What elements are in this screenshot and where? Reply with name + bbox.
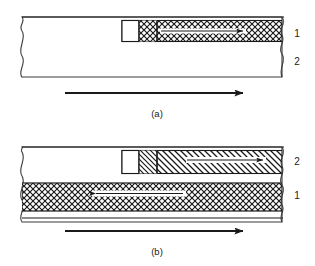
panel-b-crosshatch-fill — [22, 183, 282, 211]
panel-b-label-layer-1: 1 — [294, 190, 300, 201]
panel-a-caption: (a) — [151, 108, 163, 119]
figure-container: 1 2 (a) — [0, 0, 315, 266]
panel-a-narrow-block-fill — [139, 21, 157, 42]
panel-a-inner-arrow — [160, 29, 246, 34]
panel-a-white-block — [122, 21, 139, 42]
panel-b-narrow-block-fill — [139, 151, 157, 174]
panel-b-layer-1-band — [22, 183, 282, 211]
panel-a-label-layer-2: 2 — [294, 56, 300, 67]
panel-b-lower-arrow — [92, 191, 186, 197]
panel-b-white-block — [122, 151, 139, 174]
panel-a-label-layer-1: 1 — [294, 28, 300, 39]
panel-b-inner-arrow — [186, 157, 266, 163]
panel-b-caption: (b) — [151, 246, 163, 257]
panel-a: 1 2 (a) — [21, 17, 301, 119]
panel-b: 2 1 (b) — [21, 147, 301, 257]
panel-a-narrow-block — [139, 21, 157, 42]
panel-b-narrow-block — [139, 151, 157, 174]
panel-b-label-layer-2: 2 — [294, 156, 300, 167]
cross-section-diagram: 1 2 (a) — [0, 0, 315, 266]
